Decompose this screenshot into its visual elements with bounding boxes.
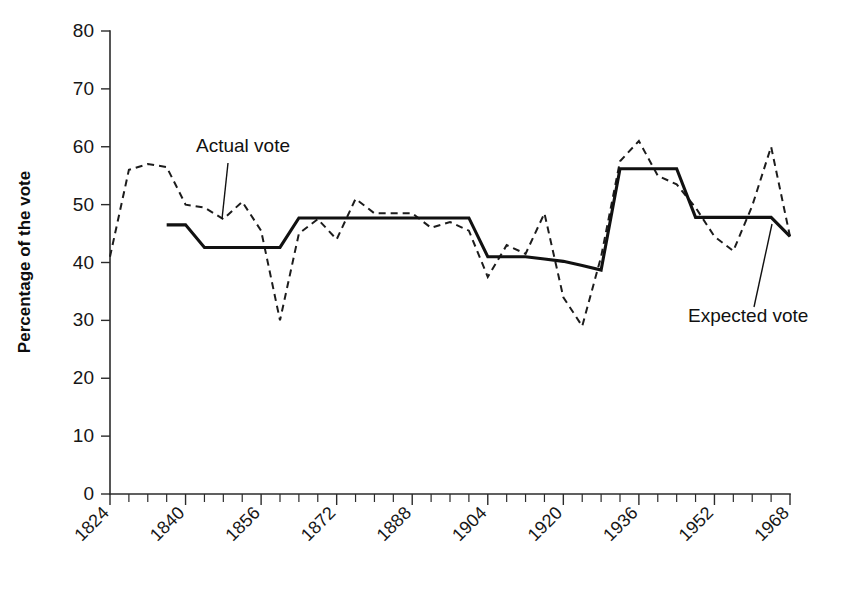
- x-tick-label: 1904: [448, 503, 490, 545]
- y-axis-title: Percentage of the vote: [15, 171, 34, 353]
- x-tick-label: 1856: [221, 503, 263, 545]
- annotation-label-expected-vote: Expected vote: [688, 305, 808, 326]
- x-tick-label: 1952: [675, 503, 717, 545]
- x-tick-label: 1872: [297, 503, 339, 545]
- y-tick-label: 60: [73, 136, 94, 157]
- y-axis: 01020304050607080: [73, 20, 110, 504]
- annotation-group: Actual voteExpected vote: [196, 135, 808, 326]
- chart-figure: 01020304050607080 1824184018561872188819…: [0, 0, 850, 592]
- y-tick-label: 20: [73, 367, 94, 388]
- y-tick-label: 0: [83, 483, 94, 504]
- y-tick-label: 30: [73, 309, 94, 330]
- y-tick-label: 50: [73, 194, 94, 215]
- x-tick-label: 1920: [524, 503, 566, 545]
- y-tick-label: 70: [73, 78, 94, 99]
- x-axis: 1824184018561872188819041920193619521968: [70, 494, 792, 545]
- x-tick-label: 1968: [750, 503, 792, 545]
- x-tick-label: 1888: [373, 503, 415, 545]
- x-tick-label: 1840: [146, 503, 188, 545]
- y-tick-label: 80: [73, 20, 94, 41]
- x-tick-label: 1824: [70, 503, 112, 545]
- chart-canvas: 01020304050607080 1824184018561872188819…: [0, 0, 850, 592]
- series-line-actual-vote: [110, 141, 790, 326]
- x-tick-label: 1936: [599, 503, 641, 545]
- annotation-label-actual-vote: Actual vote: [196, 135, 290, 156]
- y-tick-label: 10: [73, 425, 94, 446]
- annotation-leader-actual-vote: [222, 163, 228, 219]
- data-series-group: [110, 141, 790, 326]
- y-tick-label: 40: [73, 252, 94, 273]
- annotation-leader-expected-vote: [754, 224, 772, 307]
